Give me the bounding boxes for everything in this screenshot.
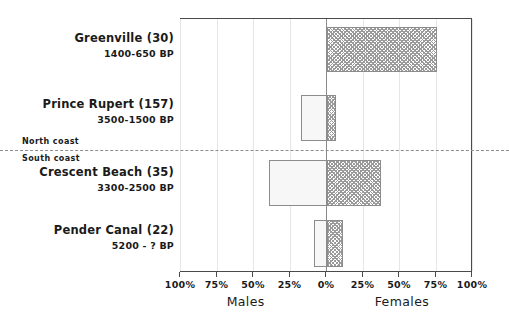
axis-tick-label: 100% [457, 279, 488, 290]
site-date-range: 3300-2500 BP [0, 183, 174, 193]
axis-tick [398, 272, 399, 277]
axis-tick-label: 75% [424, 279, 448, 290]
axis-tick [471, 272, 472, 277]
coast-divider-line [0, 150, 509, 151]
axis-tick [216, 272, 217, 277]
bar-male [301, 95, 327, 141]
axis-tick [179, 272, 180, 277]
diverging-bar-chart: Greenville (30)1400-650 BPPrince Rupert … [0, 0, 509, 323]
bar-male [269, 160, 327, 206]
bar-row [181, 160, 471, 206]
bar-row [181, 27, 471, 72]
site-name: Prince Rupert (157) [0, 98, 174, 110]
axis-title-males: Males [227, 294, 265, 309]
row-label: Greenville (30)1400-650 BP [0, 32, 174, 59]
bar-female [327, 27, 437, 72]
axis-tick-label: 50% [387, 279, 411, 290]
axis-tick [289, 272, 290, 277]
site-name: Crescent Beach (35) [0, 166, 174, 178]
axis-tick [435, 272, 436, 277]
plot-area [180, 18, 472, 272]
row-label: Crescent Beach (35)3300-2500 BP [0, 166, 174, 193]
bar-female [327, 220, 343, 267]
axis-tick [362, 272, 363, 277]
axis-title-females: Females [375, 294, 430, 309]
axis-tick-label: 0% [318, 279, 335, 290]
axis-tick-label: 25% [278, 279, 302, 290]
axis-tick-label: 100% [165, 279, 196, 290]
site-date-range: 5200 - ? BP [0, 241, 174, 251]
bar-male [314, 220, 327, 267]
site-name: Greenville (30) [0, 32, 174, 44]
row-label: Pender Canal (22)5200 - ? BP [0, 224, 174, 251]
axis-tick-label: 50% [241, 279, 265, 290]
axis-tick [252, 272, 253, 277]
gridline [472, 19, 473, 271]
bar-female [327, 160, 381, 206]
site-date-range: 1400-650 BP [0, 49, 174, 59]
row-label: Prince Rupert (157)3500-1500 BP [0, 98, 174, 125]
axis-tick-label: 75% [205, 279, 229, 290]
bar-female [327, 95, 336, 141]
bar-row [181, 220, 471, 267]
axis-tick [325, 272, 326, 277]
site-name: Pender Canal (22) [0, 224, 174, 236]
axis-tick-label: 25% [351, 279, 375, 290]
bar-row [181, 95, 471, 141]
north-coast-label: North coast [22, 137, 79, 146]
south-coast-label: South coast [22, 154, 80, 163]
site-date-range: 3500-1500 BP [0, 115, 174, 125]
